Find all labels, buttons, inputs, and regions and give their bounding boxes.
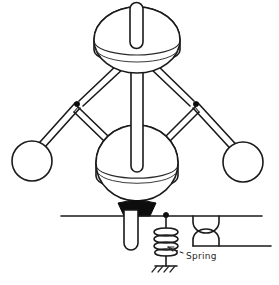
- left-pivot-joint: [74, 101, 79, 106]
- governor-diagram-canvas: Spring: [0, 0, 279, 285]
- governor-schematic-svg: Spring: [0, 0, 279, 285]
- ground-hatch-symbol: [152, 266, 177, 272]
- left-flyball: [12, 141, 52, 181]
- link-left: [74, 107, 108, 141]
- right-pivot-joint: [193, 101, 198, 106]
- hourglass-valve-symbol: [193, 216, 219, 246]
- link-right: [166, 107, 199, 141]
- shaft-top-cap: [130, 3, 143, 49]
- right-flyball: [223, 142, 263, 182]
- spring-label: Spring: [186, 251, 217, 261]
- lower-output-rod: [124, 210, 138, 250]
- coil-spring: [154, 216, 178, 266]
